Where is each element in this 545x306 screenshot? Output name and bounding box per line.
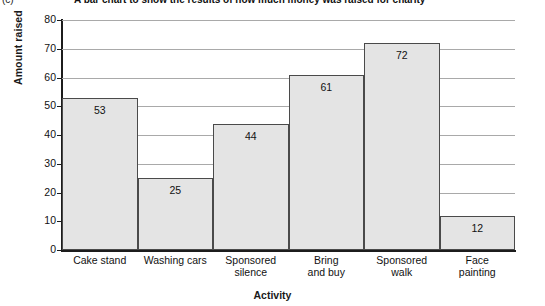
x-axis-category-label: Washing cars [138, 254, 214, 266]
bar-value-label: 72 [365, 49, 439, 61]
y-axis-tick-label: 30 [22, 157, 56, 169]
y-axis-tick [57, 78, 62, 79]
bar: 44 [213, 124, 289, 251]
x-axis-category-label-line: Cake stand [62, 254, 138, 266]
x-axis-category-label-line: Washing cars [138, 254, 214, 266]
x-axis-category-label-line: Face [440, 254, 516, 266]
y-axis-tick-label: 60 [22, 71, 56, 83]
figure-caption: (c) A bar chart to show the results of h… [0, 0, 545, 8]
chart-title: A bar chart to show the results of how m… [74, 0, 425, 5]
gridline [62, 20, 515, 21]
x-axis-category-label: Facepainting [440, 254, 516, 278]
x-axis-category-label: Cake stand [62, 254, 138, 266]
y-axis-tick-label: 40 [22, 128, 56, 140]
bar-value-label: 25 [139, 184, 213, 196]
x-axis-category-label-line: painting [440, 266, 516, 278]
y-axis-tick-label: 50 [22, 99, 56, 111]
x-axis-category-label-line: Bring [289, 254, 365, 266]
bar-value-label: 44 [214, 130, 288, 142]
caption-index: (c) [2, 0, 14, 5]
x-axis-category-label: Sponsoredsilence [213, 254, 289, 278]
y-axis-tick-label: 80 [22, 13, 56, 25]
y-axis-tick [57, 20, 62, 21]
bar: 53 [62, 98, 138, 250]
bar: 12 [440, 216, 516, 251]
bar-value-label: 53 [63, 104, 137, 116]
y-axis-tick [57, 250, 62, 251]
gridline [62, 49, 515, 50]
y-axis-tick-label: 70 [22, 42, 56, 54]
plot-area: 532544617212 [62, 20, 515, 250]
x-axis-line [61, 250, 516, 252]
x-axis-category-label: Bringand buy [289, 254, 365, 278]
x-axis-category-label-line: Sponsored [213, 254, 289, 266]
bar: 72 [364, 43, 440, 250]
y-axis-tick [57, 49, 62, 50]
y-axis-tick-label: 0 [22, 243, 56, 255]
bar-chart-figure: (c) A bar chart to show the results of h… [0, 0, 545, 306]
y-axis-tick-label: 10 [22, 214, 56, 226]
x-axis-category-label: Sponsoredwalk [364, 254, 440, 278]
bar: 25 [138, 178, 214, 250]
bar-value-label: 61 [290, 81, 364, 93]
x-axis-category-labels: Cake standWashing carsSponsoredsilenceBr… [62, 254, 515, 288]
y-axis-tick-labels: 01020304050607080 [20, 20, 56, 250]
x-axis-category-label-line: walk [364, 266, 440, 278]
bar: 61 [289, 75, 365, 250]
x-axis-title: Activity [0, 289, 545, 301]
y-axis-tick-label: 20 [22, 186, 56, 198]
x-axis-category-label-line: silence [213, 266, 289, 278]
x-axis-category-label-line: and buy [289, 266, 365, 278]
x-axis-category-label-line: Sponsored [364, 254, 440, 266]
bar-value-label: 12 [441, 222, 515, 234]
